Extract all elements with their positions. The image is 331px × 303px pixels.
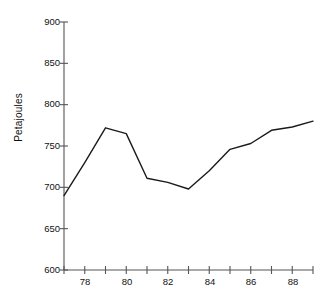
chart-svg xyxy=(0,0,331,303)
data-series-line xyxy=(64,121,313,195)
axis-lines xyxy=(64,22,313,270)
axis-tick-marks xyxy=(60,22,313,274)
line-chart: Petajoules 900 850 800 750 700 650 600 7… xyxy=(0,0,331,303)
